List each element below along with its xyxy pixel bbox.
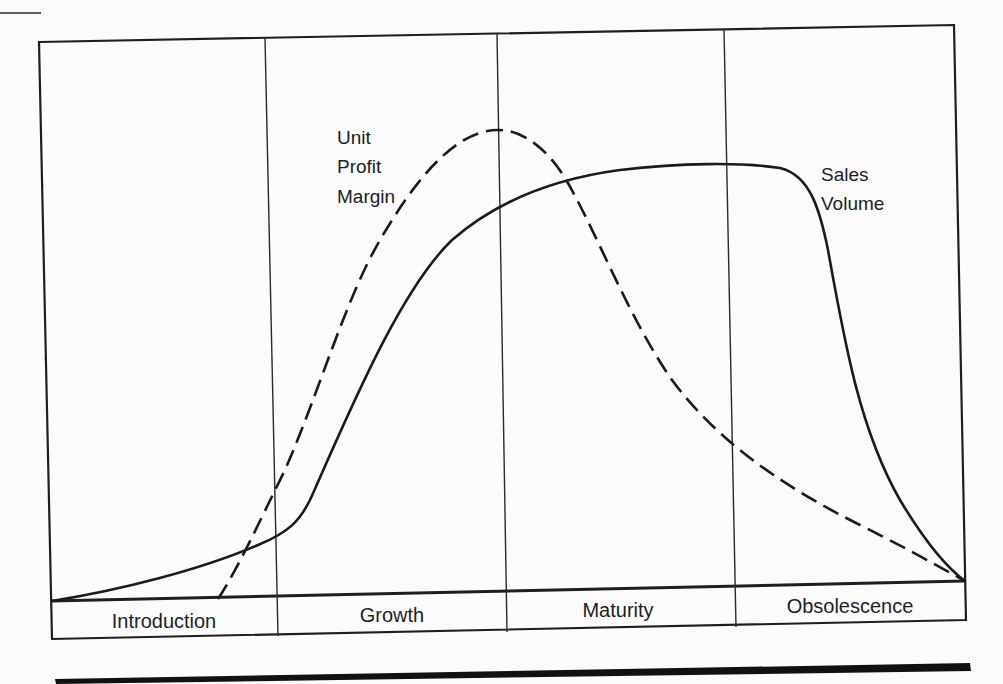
stage-label-introduction: Introduction xyxy=(112,610,217,632)
svg-text:Margin: Margin xyxy=(337,186,395,207)
sales-volume-curve xyxy=(52,164,965,601)
divider-maturity-obsolescence xyxy=(724,29,736,627)
bottom-heavy-rule xyxy=(55,663,971,684)
product-life-cycle-diagram: Unit Profit Margin Sales Volume Introduc… xyxy=(0,0,1003,684)
stage-label-growth: Growth xyxy=(360,604,424,626)
divider-intro-growth xyxy=(265,38,278,636)
svg-text:Sales: Sales xyxy=(821,164,869,185)
divider-growth-maturity xyxy=(497,34,507,632)
svg-text:Volume: Volume xyxy=(821,193,884,214)
svg-text:Unit: Unit xyxy=(337,127,372,148)
sales-volume-label: Sales Volume xyxy=(821,164,884,214)
stage-label-obsolescence: Obsolescence xyxy=(787,595,914,617)
stage-label-maturity: Maturity xyxy=(582,599,653,621)
unit-profit-margin-label: Unit Profit Margin xyxy=(337,127,395,207)
svg-text:Profit: Profit xyxy=(337,156,382,177)
